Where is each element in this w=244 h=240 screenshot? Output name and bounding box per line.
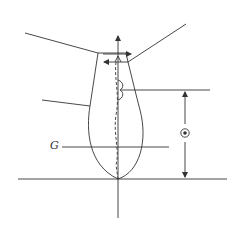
circled-dot-icon [181, 129, 189, 137]
g-label: G [50, 139, 59, 153]
top-left-line [25, 33, 98, 53]
top-right-line [128, 24, 186, 62]
middle-left-line [42, 100, 90, 106]
body-outline [88, 53, 143, 179]
diagram-canvas [0, 0, 244, 240]
